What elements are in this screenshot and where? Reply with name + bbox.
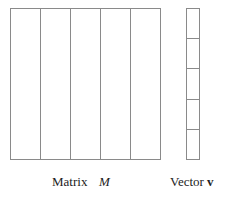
matrix-outline <box>11 9 161 160</box>
matrix-m <box>11 9 161 160</box>
matrix-label: Matrix <box>52 175 87 188</box>
vector-v <box>187 9 200 160</box>
matrix-symbol: M <box>99 175 110 188</box>
vector-symbol: v <box>207 175 214 188</box>
vector-label: Vector <box>170 175 204 188</box>
matrix-vector-diagram <box>0 0 226 199</box>
vector-outline <box>187 9 200 160</box>
